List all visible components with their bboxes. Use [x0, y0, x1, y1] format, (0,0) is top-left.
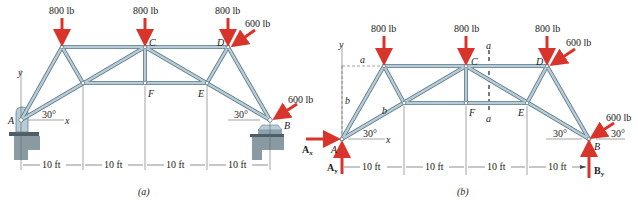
- joint-label-c: C: [149, 37, 156, 48]
- dimension-label: 10 ft: [228, 159, 247, 170]
- axis-label-y: y: [338, 39, 344, 50]
- dimension-label-a: a: [360, 54, 365, 65]
- reaction-label-ay: Ay: [327, 162, 338, 175]
- dimension-label: 10 ft: [548, 161, 567, 172]
- load-label: 800 lb: [215, 5, 240, 16]
- joint-label-e: E: [197, 88, 204, 99]
- angle-label: 30°: [611, 128, 625, 139]
- dimension-label: 10 ft: [166, 159, 185, 170]
- load-label: 600 lb: [606, 112, 631, 123]
- joint-label-c: C: [471, 56, 478, 67]
- figure-b: 800 lb 800 lb 800 lb 600 lb 600 lb C D F…: [302, 23, 631, 198]
- section-label-a-top: a: [486, 40, 491, 51]
- load-label: 800 lb: [535, 23, 560, 34]
- figure-a: 800 lb 800 lb 800 lb 600 lb 600 lb C D F…: [7, 5, 313, 198]
- axis-label-x: x: [64, 115, 70, 126]
- angle-label: 30°: [234, 109, 248, 120]
- dimension-label: 10 ft: [487, 161, 506, 172]
- member-label-b: b: [382, 105, 387, 116]
- axis-label-x: x: [385, 134, 391, 145]
- loads-b: [306, 36, 614, 178]
- joint-label-b: B: [284, 120, 290, 131]
- joint-label-d: D: [216, 37, 225, 48]
- dimension-label-b: b: [345, 95, 350, 106]
- joint-label-a: A: [7, 115, 15, 126]
- load-label: 800 lb: [133, 5, 158, 16]
- section-label-a-bottom: a: [486, 113, 491, 124]
- load-label: 600 lb: [288, 94, 313, 105]
- joint-label-f: F: [147, 88, 155, 99]
- load-label: 800 lb: [371, 23, 396, 34]
- angle-label: 30°: [42, 109, 56, 120]
- dimension-label: 10 ft: [104, 159, 123, 170]
- load-label: 800 lb: [454, 23, 479, 34]
- joint-label-d: D: [535, 56, 544, 67]
- load-label: 800 lb: [49, 5, 74, 16]
- angle-label: 30°: [553, 128, 567, 139]
- load-label: 600 lb: [566, 37, 591, 48]
- axis-label-y: y: [17, 67, 23, 78]
- reaction-label-ax: Ax: [302, 144, 313, 157]
- truss-figures: 800 lb 800 lb 800 lb 600 lb 600 lb C D F…: [0, 0, 638, 200]
- reaction-label-by: By: [594, 165, 605, 178]
- joint-label-a: A: [330, 144, 338, 155]
- dimension-label: 10 ft: [42, 159, 61, 170]
- dimension-label: 10 ft: [362, 161, 381, 172]
- roller-support-b: [250, 125, 284, 160]
- caption-b: (b): [457, 186, 469, 198]
- load-label: 600 lb: [245, 18, 270, 29]
- dimension-label: 10 ft: [425, 161, 444, 172]
- joint-label-f: F: [468, 107, 476, 118]
- joint-label-e: E: [517, 107, 524, 118]
- angle-label: 30°: [363, 128, 377, 139]
- joint-label-b: B: [594, 141, 600, 152]
- caption-a: (a): [138, 186, 150, 198]
